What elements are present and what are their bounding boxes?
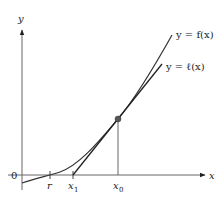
tick-label-x0: x 0 [113, 180, 123, 194]
tick-label-r: r [47, 180, 53, 191]
svg-text:1: 1 [74, 186, 78, 194]
origin-label: 0 [11, 170, 17, 181]
tangency-point [115, 116, 121, 122]
x-axis-label: x [209, 170, 215, 181]
curve-f [22, 35, 172, 183]
tick-label-x1: x 1 [68, 180, 78, 194]
curve-f-label: y = f(x) [175, 29, 214, 40]
diagram-canvas: y x 0 r x 1 x 0 y = f(x) y = ℓ(x) [0, 0, 219, 200]
svg-text:0: 0 [119, 186, 123, 194]
tangent-label: y = ℓ(x) [165, 61, 205, 72]
y-axis-label: y [17, 13, 24, 24]
